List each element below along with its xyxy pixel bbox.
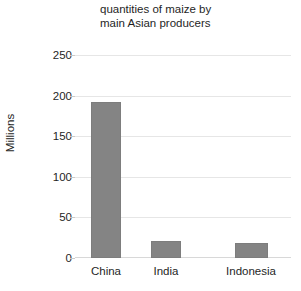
plot-area xyxy=(75,55,291,258)
gridline-250 xyxy=(75,55,291,56)
chart-title: quantities of maize by main Asian produc… xyxy=(100,2,295,30)
bar-china[interactable] xyxy=(91,102,121,258)
y-tick-label-100: 100 xyxy=(12,171,72,183)
gridline-200 xyxy=(75,96,291,97)
y-tick-mark-0 xyxy=(70,258,75,259)
x-tick-label-indonesia: Indonesia xyxy=(206,265,296,278)
y-tick-label-150: 150 xyxy=(12,130,72,142)
y-tick-label-50: 50 xyxy=(12,211,72,223)
y-tick-label-0: 0 xyxy=(12,252,72,264)
y-tick-label-200: 200 xyxy=(12,90,72,102)
x-tick-label-india: India xyxy=(121,265,211,278)
bar-chart: quantities of maize by main Asian produc… xyxy=(0,0,301,291)
y-tick-label-250: 250 xyxy=(12,49,72,61)
bar-indonesia[interactable] xyxy=(235,243,268,258)
bar-india[interactable] xyxy=(151,241,181,258)
